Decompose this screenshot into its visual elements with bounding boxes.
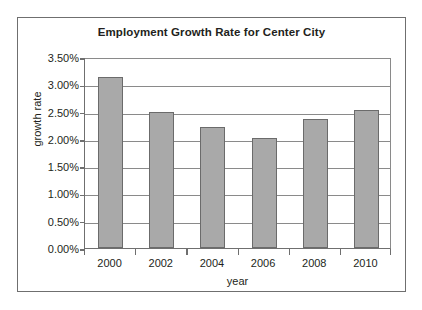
y-axis-tick-label: 1.50% xyxy=(48,161,79,173)
x-axis-tick-label: 2000 xyxy=(97,257,121,269)
y-axis-tick-mark xyxy=(80,113,85,114)
plot-area xyxy=(84,58,391,249)
gridline xyxy=(85,114,390,115)
x-axis-tick-mark xyxy=(390,249,391,255)
y-axis-tick-label: 0.50% xyxy=(48,216,79,228)
y-axis-tick-labels: 0.00%0.50%1.00%1.50%2.00%2.50%3.00%3.50% xyxy=(18,58,79,249)
x-axis-tick-mark xyxy=(238,249,239,255)
x-axis-tick-labels: 200020022004200620082010 xyxy=(84,257,391,275)
gridline xyxy=(85,86,390,87)
bar-2002 xyxy=(149,112,174,248)
bar-2000 xyxy=(98,77,123,248)
bar-2006 xyxy=(252,138,277,248)
y-axis-tick-mark xyxy=(80,86,85,87)
y-axis-tick-mark xyxy=(80,167,85,168)
chart-frame: Employment Growth Rate for Center City g… xyxy=(17,17,406,292)
x-axis-tick-label: 2004 xyxy=(200,257,224,269)
y-axis-tick-mark xyxy=(80,222,85,223)
x-axis-tick-mark xyxy=(340,249,341,255)
gridline xyxy=(85,223,390,224)
y-axis-tick-label: 0.00% xyxy=(48,243,79,255)
x-axis-tick-mark xyxy=(135,249,136,255)
x-axis-tick-marks xyxy=(84,249,391,256)
chart-title: Employment Growth Rate for Center City xyxy=(18,26,405,38)
x-axis-tick-mark xyxy=(186,249,187,255)
x-axis-tick-label: 2006 xyxy=(251,257,275,269)
y-axis-tick-label: 1.00% xyxy=(48,188,79,200)
x-axis-tick-label: 2008 xyxy=(302,257,326,269)
y-axis-tick-mark xyxy=(80,140,85,141)
bar-2004 xyxy=(200,127,225,248)
bar-2010 xyxy=(354,110,379,248)
y-axis-tick-label: 2.00% xyxy=(48,134,79,146)
y-axis-tick-mark xyxy=(80,58,85,59)
x-axis-title: year xyxy=(84,275,391,287)
x-axis-tick-label: 2010 xyxy=(353,257,377,269)
y-axis-tick-label: 3.50% xyxy=(48,52,79,64)
y-axis-tick-mark xyxy=(80,195,85,196)
y-axis-tick-label: 2.50% xyxy=(48,107,79,119)
x-axis-tick-mark xyxy=(84,249,85,255)
gridline xyxy=(85,195,390,196)
x-axis-tick-mark xyxy=(289,249,290,255)
y-axis-tick-label: 3.00% xyxy=(48,79,79,91)
gridline xyxy=(85,168,390,169)
gridline xyxy=(85,141,390,142)
bar-2008 xyxy=(303,119,328,248)
x-axis-tick-label: 2002 xyxy=(149,257,173,269)
